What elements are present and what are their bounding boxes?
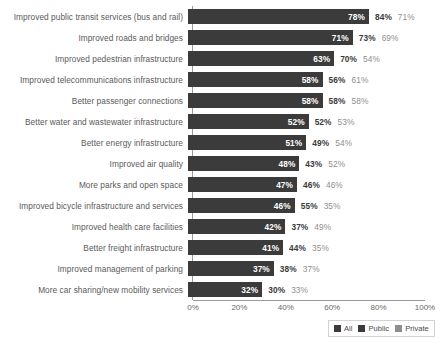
row-side-values: 73%69% xyxy=(353,30,399,45)
legend-label: Public xyxy=(368,324,389,333)
category-label: Improved roads and bridges xyxy=(0,33,188,43)
bar-all: 58% xyxy=(188,72,323,87)
bar-zone: 48%43%52% xyxy=(188,153,444,174)
x-tick-label: 100% xyxy=(415,303,435,312)
chart-row: Improved air quality48%43%52% xyxy=(0,153,444,174)
bar-value-private: 53% xyxy=(338,117,355,127)
bar-zone: 41%44%35% xyxy=(188,237,444,258)
bar-value-private: 52% xyxy=(328,159,345,169)
x-tick-label: 60% xyxy=(324,303,340,312)
bar-zone: 32%30%33% xyxy=(188,279,444,300)
bar-value-public: 52% xyxy=(315,117,332,127)
row-side-values: 43%52% xyxy=(299,156,345,171)
legend-item[interactable]: All xyxy=(334,324,352,333)
bar-all: 63% xyxy=(188,51,334,66)
category-label: Better passenger connections xyxy=(0,96,188,106)
bar-value-all: 32% xyxy=(241,285,262,295)
category-label: Improved air quality xyxy=(0,159,188,169)
category-label: Improved telecommunications infrastructu… xyxy=(0,75,188,85)
bar-value-public: 70% xyxy=(340,54,357,64)
bar-all: 52% xyxy=(188,114,309,129)
bar-zone: 42%37%49% xyxy=(188,216,444,237)
row-side-values: 30%33% xyxy=(262,282,308,297)
bar-value-public: 73% xyxy=(359,33,376,43)
category-label: More parks and open space xyxy=(0,180,188,190)
bar-value-all: 37% xyxy=(253,264,274,274)
legend-swatch-icon xyxy=(358,325,365,332)
bar-all: 48% xyxy=(188,156,299,171)
bar-all: 37% xyxy=(188,261,274,276)
bar-value-public: 49% xyxy=(312,138,329,148)
bar-zone: 52%52%53% xyxy=(188,111,444,132)
category-label: More car sharing/new mobility services xyxy=(0,285,188,295)
row-side-values: 44%35% xyxy=(283,240,329,255)
bar-value-private: 37% xyxy=(303,264,320,274)
bar-value-all: 51% xyxy=(285,138,306,148)
bar-value-all: 42% xyxy=(265,222,286,232)
bar-all: 41% xyxy=(188,240,283,255)
bar-value-public: 46% xyxy=(303,180,320,190)
bar-chart: Improved public transit services (bus an… xyxy=(0,0,444,346)
bar-zone: 47%46%46% xyxy=(188,174,444,195)
row-side-values: 49%54% xyxy=(306,135,352,150)
x-axis-line xyxy=(193,300,425,301)
chart-row: Improved public transit services (bus an… xyxy=(0,6,444,27)
bar-value-all: 52% xyxy=(288,117,309,127)
bar-zone: 46%55%35% xyxy=(188,195,444,216)
x-axis-ticks: 0%20%40%60%80%100% xyxy=(0,303,444,317)
row-side-values: 37%49% xyxy=(285,219,331,234)
bar-value-private: 54% xyxy=(363,54,380,64)
bar-value-private: 35% xyxy=(324,201,341,211)
bar-value-all: 63% xyxy=(313,54,334,64)
bar-all: 71% xyxy=(188,30,353,45)
category-label: Improved public transit services (bus an… xyxy=(0,12,188,22)
x-tick-label: 40% xyxy=(278,303,294,312)
bar-value-public: 43% xyxy=(305,159,322,169)
bar-value-all: 71% xyxy=(332,33,353,43)
category-label: Better water and wastewater infrastructu… xyxy=(0,117,188,127)
bar-value-all: 58% xyxy=(302,96,323,106)
bar-value-public: 37% xyxy=(291,222,308,232)
chart-row: Better energy infrastructure51%49%54% xyxy=(0,132,444,153)
bar-value-public: 55% xyxy=(301,201,318,211)
bar-value-all: 47% xyxy=(276,180,297,190)
bar-value-all: 58% xyxy=(302,75,323,85)
chart-row: More parks and open space47%46%46% xyxy=(0,174,444,195)
category-label: Improved bicycle infrastructure and serv… xyxy=(0,201,188,211)
bar-value-private: 61% xyxy=(351,75,368,85)
chart-row: Improved roads and bridges71%73%69% xyxy=(0,27,444,48)
bar-value-public: 56% xyxy=(329,75,346,85)
chart-row: Improved management of parking37%38%37% xyxy=(0,258,444,279)
bar-all: 51% xyxy=(188,135,306,150)
legend-item[interactable]: Private xyxy=(395,324,429,333)
legend-item[interactable]: Public xyxy=(358,324,389,333)
chart-row: Improved bicycle infrastructure and serv… xyxy=(0,195,444,216)
category-label: Improved management of parking xyxy=(0,264,188,274)
category-label: Improved health care facilities xyxy=(0,222,188,232)
chart-row: More car sharing/new mobility services32… xyxy=(0,279,444,300)
bar-zone: 71%73%69% xyxy=(188,27,444,48)
chart-row: Better freight infrastructure41%44%35% xyxy=(0,237,444,258)
bar-value-private: 58% xyxy=(351,96,368,106)
bar-zone: 58%56%61% xyxy=(188,69,444,90)
bar-value-public: 58% xyxy=(329,96,346,106)
bar-value-all: 78% xyxy=(348,12,369,22)
row-side-values: 46%46% xyxy=(297,177,343,192)
bar-value-all: 41% xyxy=(262,243,283,253)
bar-all: 47% xyxy=(188,177,297,192)
chart-row: Improved pedestrian infrastructure63%70%… xyxy=(0,48,444,69)
row-side-values: 58%58% xyxy=(323,93,369,108)
bar-value-public: 84% xyxy=(375,12,392,22)
bar-zone: 78%84%71% xyxy=(188,6,444,27)
row-side-values: 56%61% xyxy=(323,72,369,87)
bar-zone: 58%58%58% xyxy=(188,90,444,111)
category-label: Better freight infrastructure xyxy=(0,243,188,253)
bar-value-all: 48% xyxy=(278,159,299,169)
chart-legend: AllPublicPrivate xyxy=(328,320,435,337)
bar-value-private: 71% xyxy=(398,12,415,22)
bar-zone: 37%38%37% xyxy=(188,258,444,279)
row-side-values: 70%54% xyxy=(334,51,380,66)
chart-row: Better water and wastewater infrastructu… xyxy=(0,111,444,132)
legend-label: Private xyxy=(405,324,429,333)
row-side-values: 38%37% xyxy=(274,261,320,276)
